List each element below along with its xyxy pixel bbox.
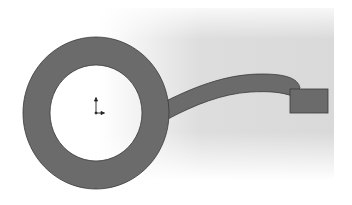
rectangle-profile[interactable] [290,89,328,113]
model-graphics [0,0,352,205]
graphics-viewport[interactable] [0,0,352,205]
sweep-band[interactable] [164,74,300,120]
coordinate-origin-icon [95,98,105,115]
